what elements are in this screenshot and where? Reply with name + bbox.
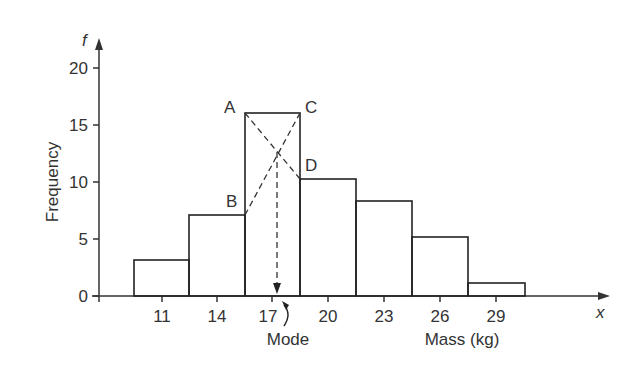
bar — [134, 260, 189, 296]
bar — [189, 215, 245, 296]
histogram-bars — [134, 113, 525, 296]
mode-arrow-icon — [273, 283, 281, 294]
x-tick-label: 11 — [153, 307, 171, 326]
x-tick-label: 29 — [487, 307, 506, 326]
x-tick-label: 17 — [259, 307, 278, 326]
point-label-b: B — [226, 192, 237, 211]
x-tick-label: 20 — [319, 307, 338, 326]
y-tick-label: 5 — [79, 230, 88, 249]
x-axis-symbol: x — [595, 303, 605, 322]
mode-label: Mode — [267, 330, 310, 349]
y-tick-label: 0 — [79, 287, 88, 306]
x-ticks — [162, 296, 496, 302]
point-label-a: A — [224, 98, 236, 117]
x-axis-arrow-icon — [598, 292, 610, 300]
y-tick-label: 20 — [69, 59, 88, 78]
mode-pointer-arrow-icon — [282, 301, 289, 310]
y-axis-label: Frequency — [43, 141, 62, 222]
bar — [468, 283, 525, 296]
y-axis-arrow-icon — [95, 38, 103, 50]
mode-construction-lines — [245, 113, 300, 285]
y-axis-symbol: f — [82, 31, 89, 50]
x-tick-label: 26 — [431, 307, 450, 326]
x-axis-label: Mass (kg) — [425, 330, 500, 349]
y-tick-label: 15 — [69, 116, 88, 135]
x-tick-label: 23 — [375, 307, 394, 326]
y-tick-label: 10 — [69, 173, 88, 192]
bar — [356, 201, 412, 296]
y-ticks — [93, 68, 99, 296]
bar — [300, 179, 356, 296]
point-label-c: C — [305, 98, 317, 117]
point-label-d: D — [305, 156, 317, 175]
histogram-chart: f x 0 5 10 15 20 Frequency 11 14 17 20 2… — [0, 0, 636, 370]
bar-modal — [245, 113, 300, 296]
bar — [412, 237, 468, 296]
x-tick-label: 14 — [208, 307, 227, 326]
